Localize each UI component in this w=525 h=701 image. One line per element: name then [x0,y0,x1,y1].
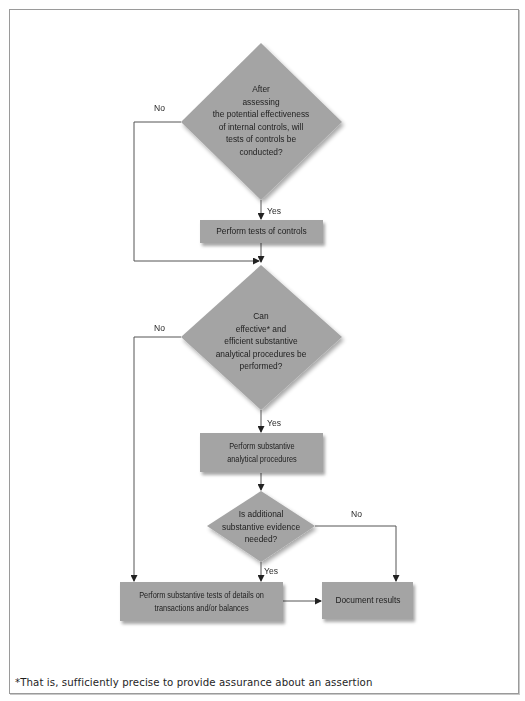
edge-label-d3-no: No [351,508,362,519]
edge-label-d1-no: No [154,102,165,113]
decision-3-text: Is additional substantive evidence neede… [213,508,310,546]
process-perform-substantive-analytical-procedures: Perform substantive analytical procedure… [200,433,323,472]
process-document-results: Document results [322,582,413,619]
decision-2-line: analytical procedures be [199,348,322,361]
decision-1-text: After assessing the potential effectiven… [199,83,322,158]
decision-2-line: performed? [199,360,322,373]
decision-2-line: efficient substantive [199,335,322,348]
process-2-line: analytical procedures [227,453,297,466]
decision-1-line: the potential effectiveness [199,108,322,121]
decision-1-line: tests of controls be [199,133,322,146]
decision-1-line: conducted? [199,146,322,159]
edge-label-d1-yes: Yes [267,205,281,216]
decision-2-line: Can [199,310,322,323]
footnote: *That is, sufficiently precise to provid… [15,677,373,688]
process-2-label: Perform substantive analytical procedure… [222,440,301,465]
decision-2-text: Can effective* and efficient substantive… [199,310,322,373]
edge-label-d2-no: No [154,322,165,333]
process-1-label: Perform tests of controls [216,225,307,238]
process-2-line: Perform substantive [227,440,297,453]
process-perform-tests-of-controls: Perform tests of controls [200,220,323,243]
decision-3-line: substantive evidence [213,521,310,534]
edge-label-d2-yes: Yes [267,417,281,428]
process-4-label: Document results [335,594,400,607]
edge-label-d3-yes: Yes [264,565,278,576]
process-3-line: transactions and/or balances [139,602,264,615]
decision-1-line: After [199,83,322,96]
decision-2-line: effective* and [199,323,322,336]
decision-1-line: of internal controls, will [199,121,322,134]
decision-1-line: assessing [199,96,322,109]
process-perform-substantive-tests-of-details: Perform substantive tests of details on … [120,582,283,621]
process-3-label: Perform substantive tests of details on … [131,589,273,614]
decision-3-line: Is additional [213,508,310,521]
decision-3-line: needed? [213,533,310,546]
process-3-line: Perform substantive tests of details on [139,589,264,602]
